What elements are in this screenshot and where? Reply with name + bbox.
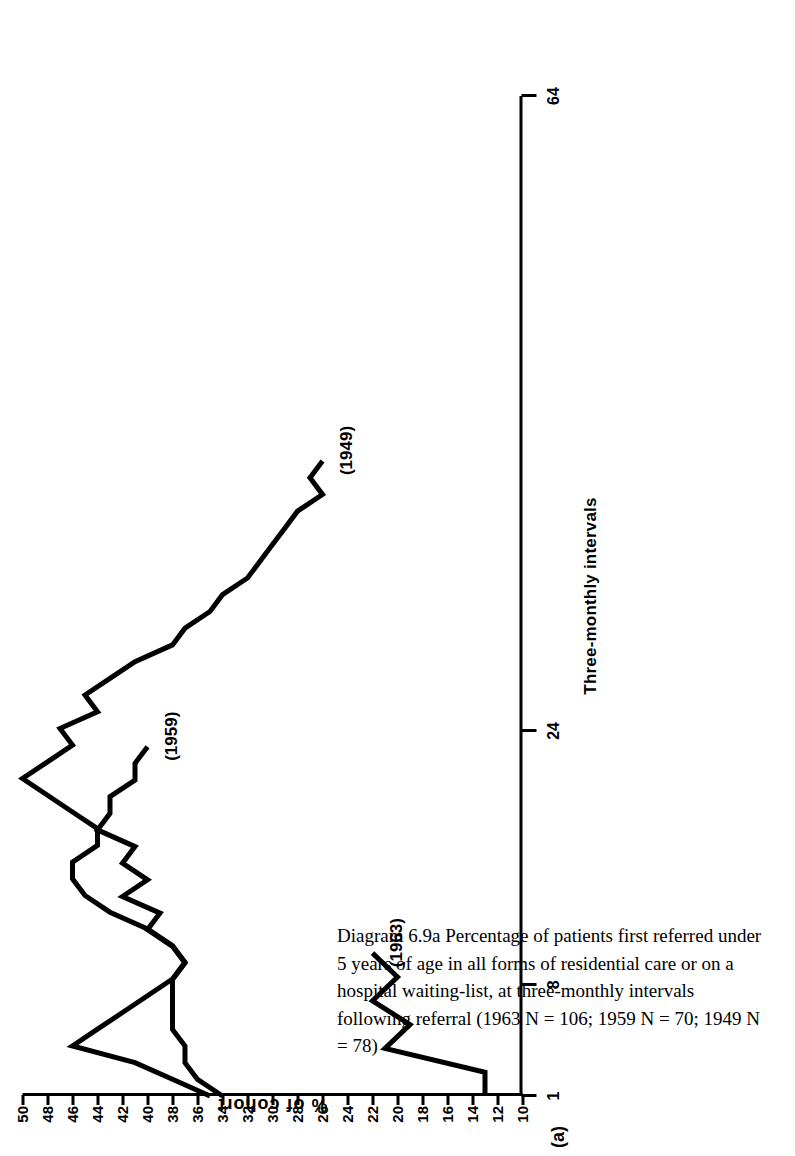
x-tick-64	[521, 94, 536, 97]
y-tick-40	[146, 1095, 149, 1105]
x-tick-label-1: 1	[544, 1092, 562, 1101]
y-tick-label-48: 48	[39, 1106, 56, 1140]
y-tick-12	[496, 1095, 499, 1105]
y-tick-44	[96, 1095, 99, 1105]
y-tick-20	[396, 1095, 399, 1105]
y-tick-label-14: 14	[464, 1106, 481, 1140]
y-tick-label-18: 18	[414, 1106, 431, 1140]
line-series-1959	[97, 747, 222, 1096]
x-tick-24	[521, 729, 536, 732]
y-tick-label-20: 20	[389, 1106, 406, 1140]
y-tick-label-10: 10	[514, 1106, 531, 1140]
panel-letter: (a)	[547, 1126, 568, 1148]
y-axis-title: % of cohort	[162, 1094, 382, 1115]
x-tick-label-64: 64	[544, 87, 562, 105]
y-tick-label-46: 46	[64, 1106, 81, 1140]
y-tick-18	[421, 1095, 424, 1105]
y-tick-label-40: 40	[139, 1106, 156, 1140]
series-label-1949: (1949)	[336, 426, 356, 475]
y-tick-14	[471, 1095, 474, 1105]
y-tick-10	[521, 1095, 524, 1105]
series-label-1959: (1959)	[161, 712, 181, 761]
y-tick-46	[71, 1095, 74, 1105]
y-tick-label-12: 12	[489, 1106, 506, 1140]
x-tick-label-24: 24	[544, 722, 562, 740]
y-tick-50	[21, 1095, 24, 1105]
y-tick-48	[46, 1095, 49, 1105]
y-tick-16	[446, 1095, 449, 1105]
y-tick-label-16: 16	[439, 1106, 456, 1140]
y-tick-42	[121, 1095, 124, 1105]
y-tick-label-50: 50	[14, 1106, 31, 1140]
figure-caption: Diagram 6.9a Percentage of patients firs…	[337, 922, 767, 1060]
y-tick-label-42: 42	[114, 1106, 131, 1140]
y-tick-label-44: 44	[89, 1106, 106, 1140]
